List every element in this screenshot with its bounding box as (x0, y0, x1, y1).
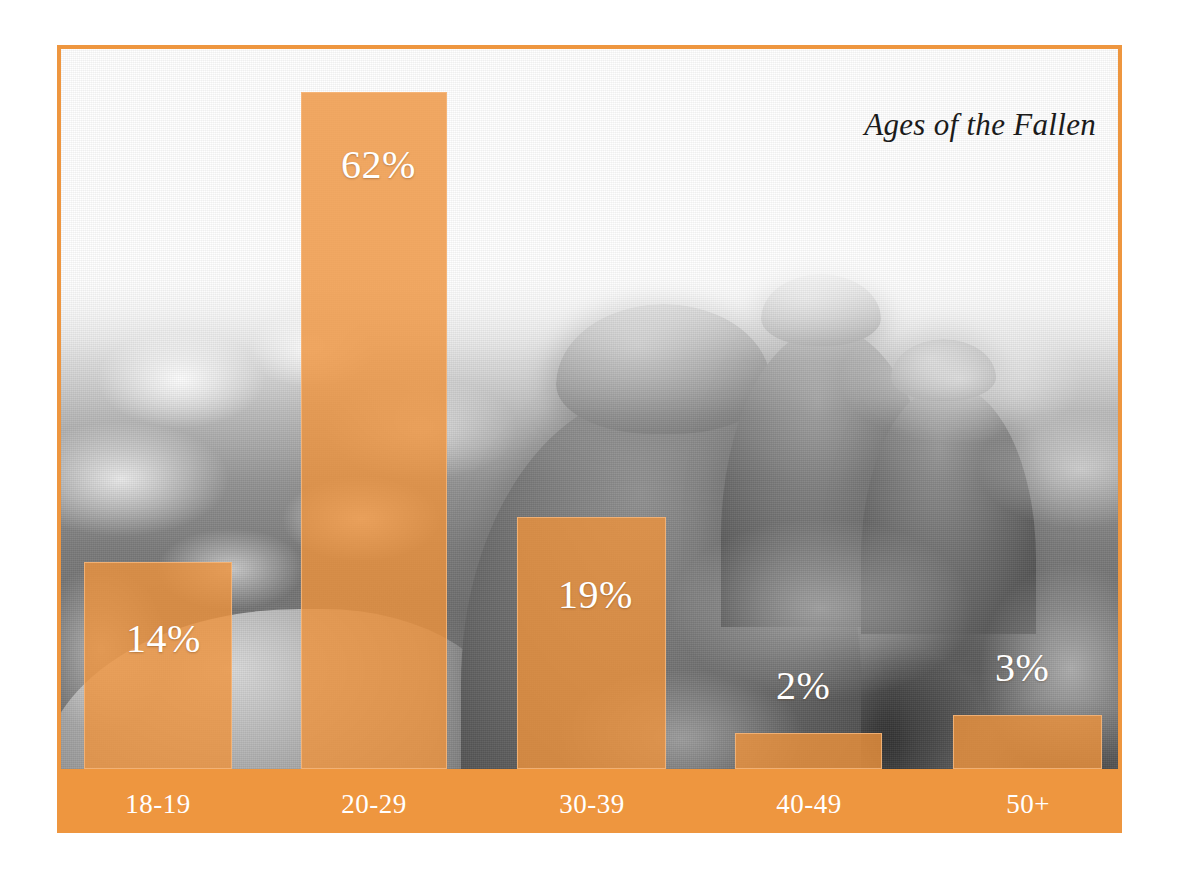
plot-area: 14% 62% 19% 2% 3% (61, 49, 1118, 829)
bar-value-20-29: 62% (341, 145, 416, 185)
axis-label-40-49: 40-49 (776, 791, 842, 818)
bar-value-30-39: 19% (558, 575, 633, 615)
axis-label-18-19: 18-19 (125, 791, 191, 818)
axis-label-20-29: 20-29 (341, 791, 407, 818)
bar-50-plus[interactable] (953, 715, 1102, 769)
poster: Ages of the Fallen 14% 62% 19% 2% 3% 18-… (0, 0, 1181, 877)
chart-frame: Ages of the Fallen 14% 62% 19% 2% 3% 18-… (57, 45, 1122, 833)
bar-value-40-49: 2% (776, 666, 830, 706)
bar-value-50-plus: 3% (995, 648, 1049, 688)
axis-label-50-plus: 50+ (1006, 791, 1050, 818)
x-axis-band: 18-19 20-29 30-39 40-49 50+ (61, 769, 1118, 833)
bar-40-49[interactable] (735, 733, 882, 769)
bar-20-29[interactable] (301, 92, 447, 769)
axis-label-30-39: 30-39 (559, 791, 625, 818)
bar-18-19[interactable] (84, 562, 232, 769)
bar-30-39[interactable] (517, 517, 666, 769)
bar-value-18-19: 14% (126, 619, 201, 659)
